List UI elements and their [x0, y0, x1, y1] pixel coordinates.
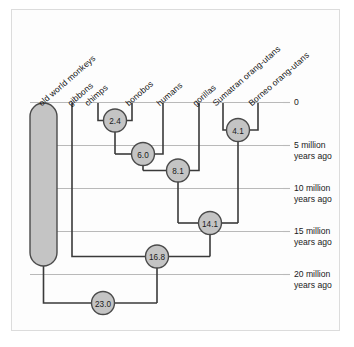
axis-label-20-line1: 20 million [294, 269, 330, 279]
axis-label-10-line1: 10 million [294, 183, 330, 193]
node-label-23_0: 23.0 [95, 299, 111, 308]
old-world-monkeys-capsule [30, 103, 57, 266]
axis-label-10: 10 million years ago [294, 183, 332, 204]
node-label-8_1: 8.1 [172, 167, 183, 176]
axis-label-0: 0 [294, 97, 299, 108]
node-label-4_1: 4.1 [232, 126, 243, 135]
axis-label-15: 15 million years ago [294, 226, 332, 247]
axis-label-10-line2: years ago [294, 194, 332, 204]
axis-label-20: 20 million years ago [294, 269, 332, 290]
axis-label-5-line2: years ago [294, 151, 332, 161]
axis-label-15-line1: 15 million [294, 226, 330, 236]
phylogenetic-tree-figure: old world monkeys gibbons chimps bonobos… [0, 0, 354, 347]
axis-label-0-line1: 0 [294, 97, 299, 107]
tree-branches [44, 103, 259, 303]
node-label-16_8: 16.8 [149, 253, 165, 262]
axis-label-20-line2: years ago [294, 280, 332, 290]
axis-label-5-line1: 5 million [294, 140, 326, 150]
axis-tick-marks [283, 103, 290, 275]
axis-label-15-line2: years ago [294, 237, 332, 247]
node-label-14_1: 14.1 [202, 219, 218, 228]
node-label-6_0: 6.0 [137, 150, 148, 159]
axis-label-5: 5 million years ago [294, 140, 332, 161]
node-label-2_4: 2.4 [109, 117, 120, 126]
